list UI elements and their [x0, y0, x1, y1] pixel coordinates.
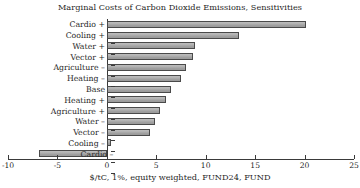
y-tick-mark: [111, 97, 115, 98]
x-axis-tick-label: -5: [54, 161, 61, 170]
y-tick-mark: [111, 86, 115, 87]
x-axis-tick-label: 15: [250, 161, 260, 170]
x-axis-tick-label: 0: [104, 161, 109, 170]
y-axis-tick-label: Cardio +: [69, 20, 105, 29]
y-tick-mark: [111, 140, 115, 141]
y-tick-mark: [111, 65, 115, 66]
y-tick-mark: [111, 54, 115, 55]
x-tick-mark: [354, 155, 355, 159]
y-axis-tick-label: Heating –: [67, 74, 105, 83]
x-tick-mark: [305, 155, 306, 159]
x-tick-mark: [8, 155, 9, 159]
bar: [107, 86, 171, 93]
y-tick-mark: [111, 130, 115, 131]
y-axis-tick-label: Heating +: [64, 95, 105, 104]
y-axis-tick-label: Base: [86, 85, 105, 94]
y-tick-mark: [111, 76, 115, 77]
x-axis-tick-label: 20: [300, 161, 310, 170]
bar: [107, 64, 186, 71]
y-axis-tick-label: Cooling –: [68, 138, 105, 147]
bar: [107, 21, 306, 28]
y-axis-tick-label: Cooling +: [66, 31, 105, 40]
y-axis-tick-label: Cardio –: [57, 149, 137, 158]
x-tick-mark: [255, 155, 256, 159]
y-tick-mark: [111, 119, 115, 120]
y-tick-mark: [111, 108, 115, 109]
y-tick-mark: [111, 162, 115, 163]
x-tick-mark: [206, 155, 207, 159]
bar: [107, 53, 193, 60]
chart-title: Marginal Costs of Carbon Dioxide Emissio…: [0, 2, 360, 12]
x-axis-line: [8, 159, 354, 160]
x-axis-label: $/tC, 1%, equity weighted, FUND24, FUND: [0, 172, 360, 182]
plot-area: [8, 19, 354, 159]
y-axis-tick-label: Vector +: [71, 52, 105, 61]
x-axis-tick-label: 25: [349, 161, 359, 170]
x-axis-tick-label: -10: [2, 161, 14, 170]
y-axis-tick-label: Agriculture +: [51, 106, 105, 115]
bar: [107, 32, 239, 39]
x-tick-mark: [156, 155, 157, 159]
x-axis-tick-label: 5: [154, 161, 159, 170]
bar: [107, 42, 195, 49]
y-tick-mark: [111, 43, 115, 44]
y-axis-tick-label: Water +: [73, 41, 105, 50]
bar: [107, 75, 181, 82]
y-axis-tick-label: Agriculture –: [53, 63, 105, 72]
y-axis-tick-label: Vector –: [73, 128, 105, 137]
bar: [107, 96, 166, 103]
y-axis-tick-label: Water –: [75, 117, 105, 126]
chart-figure: Marginal Costs of Carbon Dioxide Emissio…: [0, 0, 360, 188]
x-axis-tick-label: 10: [201, 161, 211, 170]
